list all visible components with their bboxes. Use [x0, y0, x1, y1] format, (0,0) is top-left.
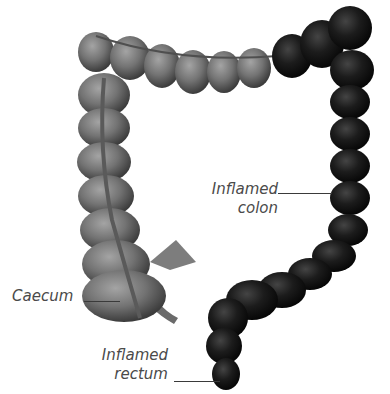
label-caecum: Caecum [12, 287, 73, 306]
colon-illustration [0, 0, 390, 394]
rectum [212, 358, 240, 390]
label-inflamed-rectum-line2: rectum [84, 365, 168, 384]
leader-line-inflamed-colon [278, 193, 332, 194]
label-inflamed-rectum: Inflamed rectum [84, 346, 168, 384]
caecum [82, 270, 166, 322]
label-inflamed-colon-line1: Inflamed [196, 180, 278, 199]
ascending-colon [77, 73, 150, 288]
colon-diagram: Inflamed colon Caecum Inflamed rectum [0, 0, 390, 394]
leader-line-caecum [84, 301, 120, 302]
label-inflamed-rectum-line1: Inflamed [84, 346, 168, 365]
label-inflamed-colon-line2: colon [196, 199, 278, 218]
label-inflamed-colon: Inflamed colon [196, 180, 278, 218]
leader-line-inflamed-rectum [174, 381, 220, 382]
mesentery-flap [150, 240, 196, 270]
